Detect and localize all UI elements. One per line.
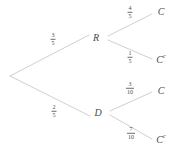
fraction-denominator: 5: [51, 40, 56, 47]
edge-probability-r-to-c-complement: 1 5: [128, 50, 133, 66]
edge-probability-d-to-c: 3 10: [126, 81, 134, 97]
edge-root-to-d: [10, 76, 90, 116]
tree-edges-group: [0, 0, 176, 152]
fraction-numerator: 1: [128, 50, 133, 57]
complement-superscript-d-cc: c: [163, 133, 166, 139]
fraction-denominator: 10: [127, 134, 135, 141]
fraction-1-5: 1 5: [128, 50, 133, 65]
edge-probability-r-to-c: 4 5: [128, 5, 133, 21]
fraction-numerator: 3: [126, 81, 134, 88]
node-label-d-c: C: [158, 86, 165, 96]
node-label-r-c: C: [158, 7, 165, 17]
edge-probability-root-to-d: 2 5: [52, 104, 57, 120]
leaf-letter-r-c: C: [158, 6, 165, 17]
leaf-letter-d-cc: C: [156, 134, 163, 145]
fraction-2-5: 2 5: [52, 104, 57, 119]
edge-probability-d-to-c-complement: 7 10: [127, 126, 135, 142]
fraction-3-5: 3 5: [51, 32, 56, 47]
fraction-4-5: 4 5: [128, 5, 133, 20]
fraction-denominator: 5: [128, 13, 133, 20]
fraction-7-10: 7 10: [127, 126, 135, 141]
node-label-d-c-complement: Cc: [156, 133, 165, 144]
complement-superscript-r-cc: c: [163, 53, 166, 59]
node-label-d: D: [94, 108, 101, 118]
leaf-letter-d-c: C: [158, 85, 165, 96]
node-label-r-c-complement: Cc: [156, 53, 165, 64]
fraction-denominator: 5: [128, 58, 133, 65]
fraction-denominator: 10: [126, 89, 134, 96]
edge-root-to-r: [10, 35, 89, 76]
fraction-numerator: 2: [52, 104, 57, 111]
edge-probability-root-to-r: 3 5: [51, 32, 56, 48]
node-label-r: R: [93, 33, 99, 43]
fraction-3-10: 3 10: [126, 81, 134, 96]
fraction-numerator: 3: [51, 32, 56, 39]
fraction-numerator: 4: [128, 5, 133, 12]
fraction-numerator: 7: [127, 126, 135, 133]
fraction-denominator: 5: [52, 112, 57, 119]
leaf-letter-r-cc: C: [156, 54, 163, 65]
probability-tree-diagram: R D C Cc C Cc 3 5 2 5 4 5 1: [0, 0, 176, 152]
